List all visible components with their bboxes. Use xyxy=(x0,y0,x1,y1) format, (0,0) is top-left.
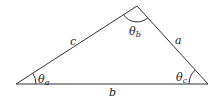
angle-label-b: θb xyxy=(129,25,141,39)
triangle-diagram: c a b θa θb θc xyxy=(0,0,217,104)
triangle-svg: c a b θa θb θc xyxy=(0,0,217,104)
side-label-b: b xyxy=(109,86,116,99)
side-label-a: a xyxy=(175,34,182,47)
angle-arc-a xyxy=(33,73,36,84)
angle-arc-c xyxy=(189,70,195,84)
angle-label-c: θc xyxy=(176,71,188,85)
angle-arc-b xyxy=(124,15,148,22)
angle-label-a: θa xyxy=(38,73,50,87)
side-label-c: c xyxy=(70,35,76,48)
